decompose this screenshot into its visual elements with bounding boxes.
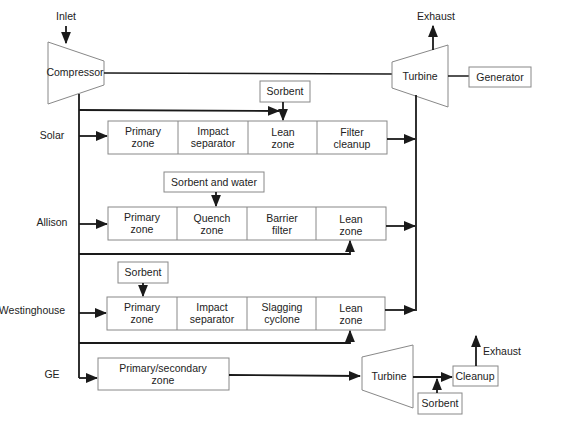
svg-text:Turbine: Turbine [371,370,406,382]
combustor-flow-diagram: Inlet Compressor Turbine Exhaust Generat… [0,0,563,421]
svg-text:Primary: Primary [124,211,161,223]
svg-text:zone: zone [131,313,154,325]
svg-text:Lean: Lean [271,126,295,138]
allison-stages: Primary zone Quench zone Barrier filter … [108,207,386,240]
svg-text:cleanup: cleanup [334,138,371,150]
svg-text:separator: separator [190,313,235,325]
solar-stages: Primary zone Impact separator Lean zone … [108,121,387,154]
svg-text:zone: zone [132,137,155,149]
allison-sorbent-water-box: Sorbent and water [164,172,264,192]
ge-exhaust-label: Exhaust [483,345,521,357]
row-label-allison: Allison [37,216,68,228]
ge-turbine: Turbine [362,345,413,408]
turbine: Turbine [392,45,448,107]
ge-combustor-box: Primary/secondary zone [98,358,229,390]
ge-cleanup-box: Cleanup [453,366,498,386]
svg-text:zone: zone [340,314,363,326]
westinghouse-sorbent-box: Sorbent [118,262,168,283]
svg-text:zone: zone [272,138,295,150]
allison-bypass-arrow [79,241,350,254]
svg-text:Slagging: Slagging [262,301,303,313]
westinghouse-stages: Primary zone Impact separator Slagging c… [107,297,385,330]
ge-outlet-arrow [229,375,360,376]
svg-text:Lean: Lean [339,302,363,314]
svg-text:Filter: Filter [340,126,364,138]
svg-text:Sorbent: Sorbent [125,266,162,278]
westinghouse-bypass-arrow [79,331,350,343]
row-label-westinghouse: Westinghouse [0,304,65,316]
solar-bypass-arrow [79,110,279,111]
svg-text:Sorbent: Sorbent [267,85,304,97]
solar-sorbent-box: Sorbent [260,81,310,102]
compressor: Compressor [46,42,104,104]
compressor-label: Compressor [46,66,104,78]
svg-text:Impact: Impact [197,125,229,137]
ge-sorbent-box: Sorbent [418,393,462,414]
svg-text:Cleanup: Cleanup [455,370,494,382]
svg-text:zone: zone [340,225,363,237]
svg-text:zone: zone [152,374,175,386]
shaft-line [104,73,392,74]
row-label-ge: GE [44,368,59,380]
svg-text:Impact: Impact [196,301,228,313]
svg-text:Sorbent: Sorbent [422,397,459,409]
generator-label: Generator [476,71,524,83]
row-label-solar: Solar [40,129,65,141]
svg-text:Lean: Lean [339,213,363,225]
svg-text:Sorbent and water: Sorbent and water [171,176,257,188]
svg-text:Primary: Primary [124,301,161,313]
exhaust-label: Exhaust [417,10,455,22]
svg-text:filter: filter [272,224,292,236]
svg-text:Quench: Quench [194,212,231,224]
generator-box: Generator [469,67,531,87]
svg-text:cyclone: cyclone [264,313,300,325]
inlet-label: Inlet [56,10,76,22]
svg-text:Primary: Primary [125,125,162,137]
svg-text:zone: zone [201,224,224,236]
svg-text:Barrier: Barrier [266,212,298,224]
svg-text:zone: zone [131,223,154,235]
svg-text:separator: separator [191,137,236,149]
svg-text:Primary/secondary: Primary/secondary [119,362,207,374]
turbine-label: Turbine [402,70,437,82]
